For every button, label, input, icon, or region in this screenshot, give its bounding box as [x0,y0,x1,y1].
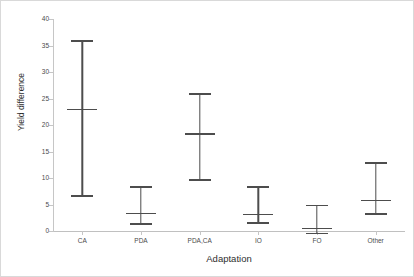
error-bar-lower-cap [306,233,328,235]
y-tick-label-wrap: 5 [15,205,49,206]
error-bar-mean-marker [361,200,391,201]
y-tick-label: 10 [21,175,49,182]
error-bar-lower-cap [189,179,211,181]
error-bar-stem [82,40,83,195]
error-bar-lower-cap [71,195,93,197]
error-bar-stem [258,186,259,222]
error-bar-mean-marker [185,133,215,134]
y-tick-label-wrap: 10 [15,178,49,179]
chart-figure: 0510152025303540 CAPDAPDA,CAIOFOOther Yi… [0,0,414,277]
y-tick-label-wrap: 40 [15,19,49,20]
error-bar-other [356,1,396,277]
error-bar-upper-cap [306,205,328,207]
y-tick-mark [49,178,54,179]
error-bar-lower-cap [247,222,269,224]
error-bar-lower-cap [365,213,387,215]
error-bar-upper-cap [130,186,152,188]
y-axis-title: Yield difference [16,37,26,167]
x-axis-line [53,231,405,232]
y-tick-mark [49,19,54,20]
error-bar-stem [140,186,141,223]
error-bar-stem [375,162,376,213]
y-tick-mark [49,46,54,47]
y-tick-label: 0 [21,228,49,235]
error-bar-lower-cap [130,223,152,225]
error-bar-io [238,1,278,277]
y-tick-mark [49,125,54,126]
y-tick-label-wrap: 0 [15,231,49,232]
error-bar-upper-cap [189,93,211,95]
y-tick-mark [49,231,54,232]
error-bar-upper-cap [71,40,93,42]
y-tick-label: 5 [21,202,49,209]
y-tick-mark [49,99,54,100]
error-bar-fo [297,1,337,277]
error-bar-mean-marker [126,213,156,214]
error-bar-pda [121,1,161,277]
error-bar-mean-marker [243,214,273,215]
error-bar-mean-marker [67,109,97,110]
error-bar-upper-cap [247,186,269,188]
error-bar-mean-marker [302,228,332,229]
y-tick-mark [49,72,54,73]
y-tick-mark [49,152,54,153]
error-bar-pda-ca [180,1,220,277]
x-axis-title: Adaptation [53,253,405,264]
y-tick-mark [49,205,54,206]
y-tick-label: 40 [21,16,49,23]
error-bar-ca [62,1,102,277]
error-bar-upper-cap [365,162,387,164]
error-bar-stem [199,93,200,179]
